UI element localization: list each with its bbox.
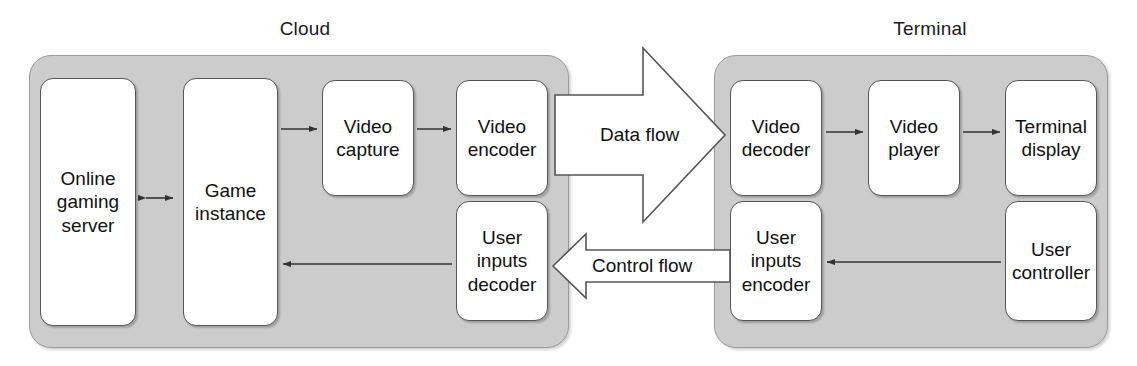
node-line: gaming bbox=[55, 190, 121, 213]
node-line: capture bbox=[334, 138, 401, 161]
node-line: Online bbox=[55, 167, 121, 190]
node-terminal-display[interactable]: Terminal display bbox=[1005, 80, 1097, 196]
node-video-encoder[interactable]: Video encoder bbox=[456, 80, 548, 196]
node-video-decoder[interactable]: Video decoder bbox=[730, 80, 822, 196]
group-label-cloud: Cloud bbox=[230, 18, 380, 40]
node-user-inputs-decoder[interactable]: User inputs decoder bbox=[456, 201, 548, 321]
node-user-inputs-encoder[interactable]: User inputs encoder bbox=[730, 201, 822, 321]
node-line: Video bbox=[334, 115, 401, 138]
node-line: inputs bbox=[740, 249, 813, 272]
node-user-controller[interactable]: User controller bbox=[1005, 201, 1097, 321]
node-line: player bbox=[886, 138, 942, 161]
control-flow-label: Control flow bbox=[592, 255, 692, 277]
node-line: instance bbox=[193, 202, 268, 225]
node-line: Video bbox=[740, 115, 813, 138]
node-line: Video bbox=[466, 115, 539, 138]
node-line: User bbox=[1010, 238, 1092, 261]
node-line: decoder bbox=[740, 138, 813, 161]
node-video-capture[interactable]: Video capture bbox=[322, 80, 414, 196]
node-game-instance[interactable]: Game instance bbox=[183, 78, 278, 326]
node-line: decoder bbox=[466, 273, 539, 296]
node-line: User bbox=[740, 226, 813, 249]
node-line: controller bbox=[1010, 261, 1092, 284]
node-line: inputs bbox=[466, 249, 539, 272]
node-video-player[interactable]: Video player bbox=[868, 80, 960, 196]
node-line: server bbox=[55, 214, 121, 237]
node-line: Game bbox=[193, 179, 268, 202]
node-line: Video bbox=[886, 115, 942, 138]
node-line: encoder bbox=[740, 273, 813, 296]
node-line: User bbox=[466, 226, 539, 249]
node-line: encoder bbox=[466, 138, 539, 161]
node-line: Terminal bbox=[1013, 115, 1089, 138]
node-online-gaming-server[interactable]: Online gaming server bbox=[40, 78, 136, 326]
architecture-diagram: Cloud Terminal Online gaming server Game… bbox=[0, 0, 1137, 366]
group-label-terminal: Terminal bbox=[855, 18, 1005, 40]
node-line: display bbox=[1013, 138, 1089, 161]
data-flow-label: Data flow bbox=[600, 124, 679, 146]
